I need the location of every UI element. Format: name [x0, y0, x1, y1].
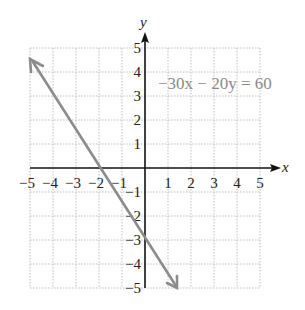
y-axis-label: y	[138, 14, 147, 30]
svg-text:4: 4	[233, 175, 241, 191]
svg-text:2: 2	[187, 175, 195, 191]
svg-text:−5: −5	[125, 280, 141, 296]
svg-text:5: 5	[256, 175, 264, 191]
x-tick-labels: −5 −4 −3 −2 −1 1 2 3 4 5	[19, 175, 264, 191]
svg-text:−2: −2	[88, 175, 104, 191]
svg-text:−4: −4	[125, 256, 141, 272]
svg-text:−5: −5	[19, 175, 35, 191]
svg-text:2: 2	[134, 112, 142, 128]
svg-text:3: 3	[210, 175, 218, 191]
x-axis-label: x	[281, 159, 289, 175]
svg-text:−1: −1	[125, 184, 141, 200]
line-series	[30, 59, 177, 288]
svg-text:5: 5	[134, 40, 142, 56]
coordinate-plane: x y −5 −4 −3 −2 −1 1 2 3 4 5 5 4 3 2 1 −…	[0, 0, 305, 310]
svg-text:−3: −3	[125, 232, 141, 248]
equation-label: −30x − 20y = 60	[158, 74, 272, 93]
svg-text:−3: −3	[65, 175, 81, 191]
svg-text:1: 1	[134, 136, 142, 152]
svg-text:3: 3	[134, 88, 142, 104]
svg-text:4: 4	[134, 64, 142, 80]
svg-text:1: 1	[164, 175, 172, 191]
svg-text:−4: −4	[42, 175, 58, 191]
